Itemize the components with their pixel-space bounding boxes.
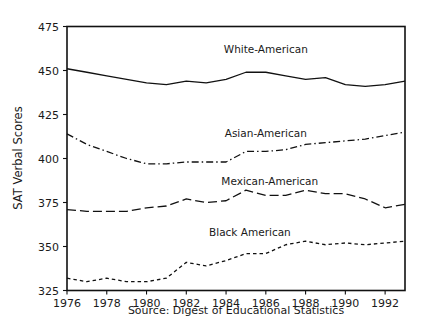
x-tick-label: 1992 bbox=[371, 297, 399, 310]
chart-caption: Source: Digest of Educational Statistics bbox=[128, 304, 345, 317]
chart-background bbox=[0, 0, 431, 322]
x-tick-label: 1976 bbox=[53, 297, 81, 310]
x-tick-label: 1978 bbox=[93, 297, 121, 310]
y-tick-label: 375 bbox=[38, 197, 59, 210]
y-tick-label: 475 bbox=[38, 21, 59, 34]
series-label-white-american: White-American bbox=[224, 43, 308, 55]
sat-verbal-scores-line-chart: 325350375400425450475 SAT Verbal Scores … bbox=[0, 0, 431, 322]
y-tick-label: 400 bbox=[38, 153, 59, 166]
series-label-mexican-american: Mexican-American bbox=[221, 175, 318, 187]
series-label-asian-american: Asian-American bbox=[225, 127, 307, 139]
y-tick-label: 450 bbox=[38, 65, 59, 78]
chart-page: 325350375400425450475 SAT Verbal Scores … bbox=[0, 0, 431, 322]
y-tick-label: 350 bbox=[38, 241, 59, 254]
y-axis-label: SAT Verbal Scores bbox=[11, 106, 25, 209]
y-tick-label: 425 bbox=[38, 109, 59, 122]
series-label-black-american: Black American bbox=[209, 226, 291, 238]
